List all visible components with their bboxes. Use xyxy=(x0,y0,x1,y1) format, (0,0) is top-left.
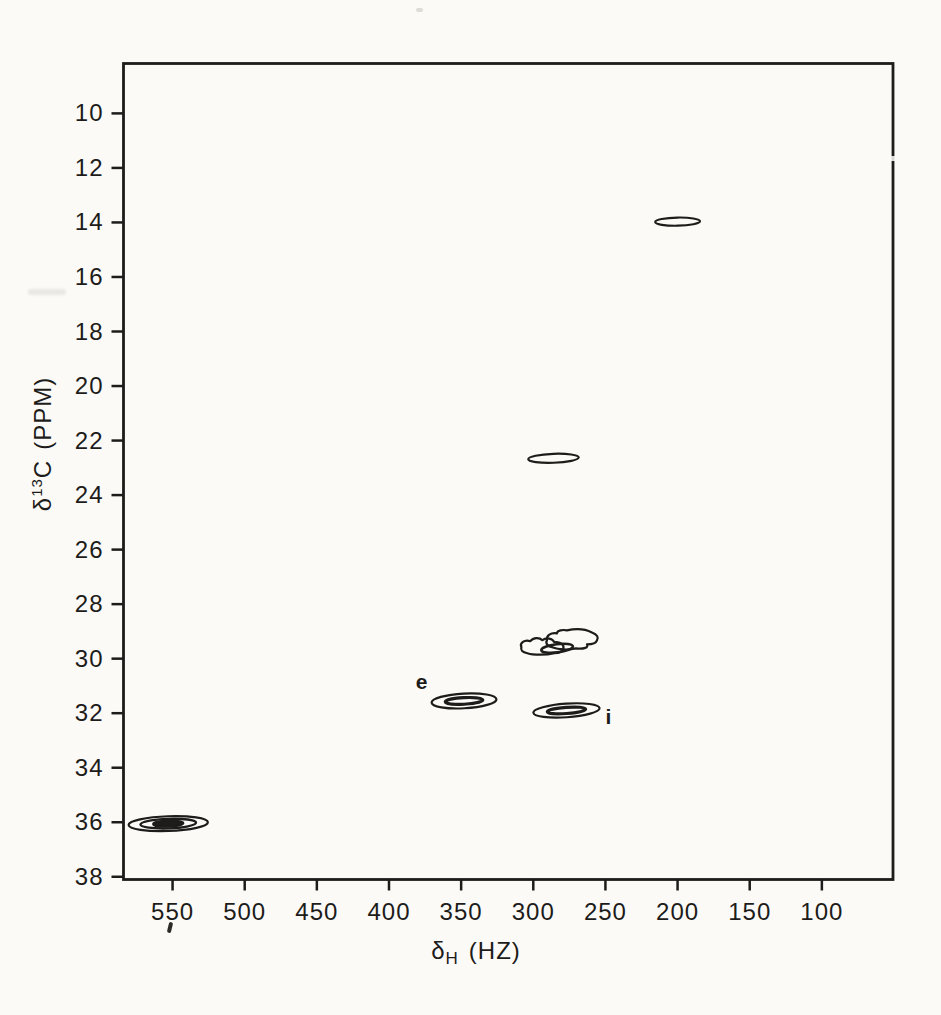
x-tick-label: 150 xyxy=(728,898,771,925)
peak-contour-core xyxy=(153,820,183,827)
peak-label-e: e xyxy=(416,670,429,693)
y-tick-label: 36 xyxy=(75,808,104,835)
carbon-nucleus: C xyxy=(29,460,56,478)
x-tick-label: 200 xyxy=(656,898,699,925)
x-axis-title: δH(HZ) xyxy=(431,937,521,970)
plot-frame xyxy=(124,64,894,880)
x-tick-label: 300 xyxy=(512,898,555,925)
x-tick-label: 250 xyxy=(584,898,627,925)
y-tick-label: 14 xyxy=(75,208,104,235)
x-tick-label: 350 xyxy=(440,898,483,925)
y-axis-units: (PPM) xyxy=(29,377,56,450)
peak-contour-inner xyxy=(547,706,586,715)
delta-symbol: δ xyxy=(29,497,56,511)
peak-contour xyxy=(431,692,497,710)
x-tick-label: 500 xyxy=(223,898,266,925)
y-tick-label: 34 xyxy=(75,754,104,781)
y-tick-label: 26 xyxy=(75,536,104,563)
delta-symbol: δ xyxy=(431,937,445,964)
x-tick-label: 100 xyxy=(800,898,843,925)
nmr-contour-figure: 1012141618202224262830323436385505004504… xyxy=(0,0,941,1015)
x-tick-label: 400 xyxy=(367,898,410,925)
peak-contour xyxy=(533,701,600,719)
y-tick-label: 24 xyxy=(75,481,104,508)
y-tick-label: 16 xyxy=(75,263,104,290)
peak-contour xyxy=(655,217,700,226)
x-tick-label: 550 xyxy=(151,898,194,925)
y-tick-label: 10 xyxy=(75,99,104,126)
y-tick-label: 30 xyxy=(75,645,104,672)
peak-contour-inner xyxy=(445,697,483,706)
y-tick-label: 12 xyxy=(75,154,104,181)
y-tick-label: 22 xyxy=(75,427,104,454)
x-tick-label: 450 xyxy=(295,898,338,925)
y-tick-label: 38 xyxy=(75,863,104,890)
peak-label-i: i xyxy=(606,705,613,728)
y-axis-title: δ13C(PPM) xyxy=(28,377,57,511)
x-axis-units: (HZ) xyxy=(469,937,521,964)
y-tick-label: 32 xyxy=(75,699,104,726)
proton-subscript: H xyxy=(446,949,459,968)
contour-plot: 1012141618202224262830323436385505004504… xyxy=(0,0,941,1015)
carbon-13-superscript: 13 xyxy=(28,478,45,497)
y-tick-label: 28 xyxy=(75,590,104,617)
y-tick-label: 20 xyxy=(75,372,104,399)
peak-contour xyxy=(528,453,579,464)
y-tick-label: 18 xyxy=(75,318,104,345)
